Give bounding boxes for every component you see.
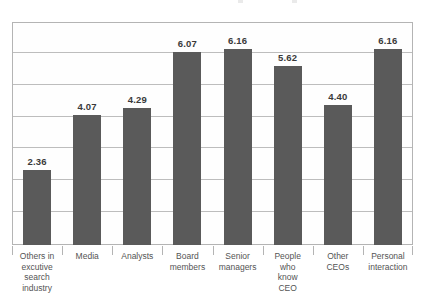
category-label-line: excutive (12, 262, 62, 273)
category-label-line: CEO (263, 283, 313, 294)
category-label-7: Personalinteraction (363, 246, 413, 302)
axis-tick (162, 246, 163, 255)
category-label-line: Senior (213, 251, 263, 262)
bar-value-label: 5.62 (278, 52, 297, 63)
category-label-1: Media (62, 246, 112, 302)
category-label-line: Other (313, 251, 363, 262)
category-label-line: CEOs (313, 262, 363, 273)
bar-slot: 6.16 (213, 22, 263, 245)
category-label-line: Analysts (112, 251, 162, 262)
scan-artifact (238, 0, 243, 3)
bar-value-label: 6.16 (228, 35, 247, 46)
bar-value-label: 4.29 (128, 94, 147, 105)
category-label-3: Boardmembers (162, 246, 212, 302)
bar[interactable]: 4.40 (324, 105, 352, 245)
axis-tick (112, 246, 113, 255)
category-label-2: Analysts (112, 246, 162, 302)
bar-series: 2.364.074.296.076.165.624.406.16 (12, 22, 413, 245)
bar-value-label: 6.16 (378, 35, 397, 46)
axis-tick (213, 246, 214, 255)
bar-value-label: 2.36 (27, 156, 46, 167)
category-label-line: interaction (363, 262, 413, 273)
bar-value-label: 4.40 (328, 91, 347, 102)
category-label-0: Others inexcutivesearchindustry (12, 246, 62, 302)
category-axis: Others inexcutivesearchindustryMediaAnal… (12, 246, 413, 302)
category-label-line: People (263, 251, 313, 262)
category-label-line: Others in (12, 251, 62, 262)
bar[interactable]: 6.07 (173, 52, 201, 245)
bar[interactable]: 2.36 (23, 170, 51, 245)
bar-slot: 4.40 (313, 22, 363, 245)
category-label-5: PeoplewhoknowCEO (263, 246, 313, 302)
axis-tick (313, 246, 314, 255)
axis-tick (412, 246, 413, 255)
category-label-line: Media (62, 251, 112, 262)
bar-slot: 6.07 (162, 22, 212, 245)
category-label-4: Seniormanagers (213, 246, 263, 302)
bar[interactable]: 6.16 (224, 49, 252, 245)
bar[interactable]: 5.62 (274, 66, 302, 245)
scan-artifact (292, 0, 297, 3)
bar[interactable]: 4.07 (73, 115, 101, 245)
bar-slot: 5.62 (263, 22, 313, 245)
bar[interactable]: 4.29 (123, 108, 151, 245)
category-label-line: Board (162, 251, 212, 262)
category-label-line: who (263, 262, 313, 273)
axis-tick (12, 246, 13, 255)
bar-slot: 4.29 (112, 22, 162, 245)
category-label-line: industry (12, 283, 62, 294)
category-label-line: know (263, 272, 313, 283)
bar-slot: 6.16 (363, 22, 413, 245)
bar-chart: 2.364.074.296.076.165.624.406.16 Others … (0, 0, 426, 303)
bar-slot: 2.36 (12, 22, 62, 245)
bar[interactable]: 6.16 (374, 49, 402, 245)
category-label-line: members (162, 262, 212, 273)
bar-value-label: 4.07 (78, 101, 97, 112)
axis-tick (62, 246, 63, 255)
category-label-6: OtherCEOs (313, 246, 363, 302)
bar-value-label: 6.07 (178, 38, 197, 49)
category-label-line: managers (213, 262, 263, 273)
axis-tick (363, 246, 364, 255)
bar-slot: 4.07 (62, 22, 112, 245)
category-label-line: Personal (363, 251, 413, 262)
axis-tick (263, 246, 264, 255)
category-label-line: search (12, 272, 62, 283)
